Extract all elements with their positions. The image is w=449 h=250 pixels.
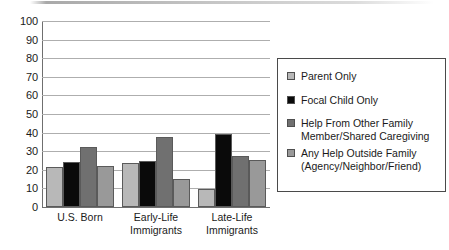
- legend-item[interactable]: Any Help Outside Family(Agency/Neighbor/…: [287, 147, 445, 172]
- x-category-label: U.S. Born: [42, 211, 118, 237]
- legend-swatch-icon: [287, 119, 295, 127]
- y-tick-label: 90: [4, 35, 38, 46]
- bar-group: [194, 21, 270, 207]
- bar: [173, 179, 190, 207]
- legend-swatch-icon: [287, 96, 295, 104]
- y-tick-label: 10: [4, 183, 38, 194]
- legend-swatch-icon: [287, 72, 295, 80]
- y-tick-label: 20: [4, 165, 38, 176]
- bar-group: [42, 21, 118, 207]
- bar: [80, 147, 97, 207]
- x-axis-line: [42, 207, 270, 208]
- bar-chart-figure: 1009080706050403020100 U.S. BornEarly-Li…: [0, 0, 449, 250]
- bar: [232, 156, 249, 207]
- legend-swatch-icon: [287, 149, 295, 157]
- y-tick-label: 80: [4, 53, 38, 64]
- x-axis-category-labels: U.S. BornEarly-LifeImmigrantsLate-LifeIm…: [42, 211, 270, 237]
- legend-item-label: Help From Other FamilyMember/Shared Care…: [301, 117, 429, 142]
- bar: [156, 137, 173, 207]
- y-tick-label: 70: [4, 72, 38, 83]
- bar: [215, 134, 232, 207]
- chart-legend: Parent OnlyFocal Child OnlyHelp From Oth…: [277, 58, 446, 192]
- y-tick-label: 50: [4, 109, 38, 120]
- bar-groups: [42, 21, 270, 207]
- bar-group: [118, 21, 194, 207]
- legend-item[interactable]: Help From Other FamilyMember/Shared Care…: [287, 117, 445, 142]
- legend-item-label: Parent Only: [301, 70, 356, 83]
- bar: [139, 161, 156, 208]
- bar: [46, 167, 63, 207]
- y-axis-tick-labels: 1009080706050403020100: [0, 21, 38, 207]
- bar: [122, 163, 139, 207]
- bar: [97, 166, 114, 207]
- x-category-label: Late-LifeImmigrants: [194, 211, 270, 237]
- x-category-label: Early-LifeImmigrants: [118, 211, 194, 237]
- legend-item-label: Focal Child Only: [301, 94, 378, 107]
- y-tick-label: 60: [4, 90, 38, 101]
- bar: [249, 160, 266, 207]
- y-tick-label: 30: [4, 146, 38, 157]
- y-tick-label: 100: [4, 16, 38, 27]
- legend-item-label: Any Help Outside Family(Agency/Neighbor/…: [301, 147, 421, 172]
- y-tick-label: 0: [4, 202, 38, 213]
- legend-item[interactable]: Focal Child Only: [287, 94, 445, 107]
- y-tick-label: 40: [4, 128, 38, 139]
- bar: [198, 189, 215, 207]
- bar: [63, 162, 80, 207]
- legend-item[interactable]: Parent Only: [287, 70, 445, 83]
